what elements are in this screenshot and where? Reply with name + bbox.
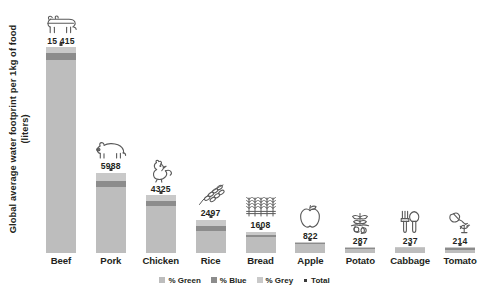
bar-column: 237 xyxy=(387,8,433,253)
potato-plant-icon xyxy=(346,211,374,235)
bar-segment-green xyxy=(445,250,475,253)
chicken-icon xyxy=(147,159,175,183)
chart-legend: % Green% Blue% GreyTotal xyxy=(0,274,489,286)
bar-column: 214 xyxy=(437,8,483,253)
total-marker-dot xyxy=(59,43,62,46)
bar-segment-green xyxy=(295,244,325,253)
x-axis-label-tomato: Tomato xyxy=(437,255,483,266)
legend-swatch-grey xyxy=(257,277,263,283)
legend-label: % Grey xyxy=(266,276,294,285)
bar-segment-green xyxy=(196,231,226,253)
bar-segment-grey xyxy=(96,173,126,181)
x-axis-label-beef: Beef xyxy=(38,255,84,266)
stacked-bar xyxy=(445,247,475,253)
watering-can-icon xyxy=(446,211,474,235)
bar-column: 287 xyxy=(337,8,383,253)
legend-item[interactable]: % Grey xyxy=(257,276,294,285)
y-axis-title-line1: Global average water footprint per 1kg o… xyxy=(8,25,18,234)
stacked-bar xyxy=(395,247,425,253)
bar-segment-green xyxy=(46,60,76,253)
legend-item[interactable]: % Blue xyxy=(211,276,247,285)
wheat-bundle-icon xyxy=(244,195,278,219)
bar-segment-green xyxy=(395,248,425,253)
x-axis-label-apple: Apple xyxy=(287,255,333,266)
total-marker-dot xyxy=(309,238,312,241)
total-marker-dot xyxy=(409,243,412,246)
bar-segment-green xyxy=(146,206,176,253)
garden-tools-icon xyxy=(396,209,424,235)
x-axis-label-rice: Rice xyxy=(188,255,234,266)
legend-label: Total xyxy=(311,276,330,285)
total-marker-dot xyxy=(459,243,462,246)
x-axis-labels: BeefPorkChickenRiceBreadApplePotatoCabba… xyxy=(36,255,485,269)
bar-column: 5988 xyxy=(88,8,134,253)
cow-icon xyxy=(44,13,78,35)
water-footprint-chart: Global average water footprint per 1kg o… xyxy=(0,0,489,301)
plot-area: 15 4155988432524971608822287237214 xyxy=(36,8,485,253)
x-axis-label-bread: Bread xyxy=(238,255,284,266)
total-marker-dot xyxy=(259,227,262,230)
stacked-bar xyxy=(196,220,226,253)
stacked-bar xyxy=(96,173,126,253)
legend-swatch-blue xyxy=(211,277,217,283)
apple-icon xyxy=(297,204,323,230)
y-axis-title: Global average water footprint per 1kg o… xyxy=(2,0,36,258)
legend-item[interactable]: % Green xyxy=(159,276,200,285)
total-marker-dot xyxy=(359,243,362,246)
x-axis-label-potato: Potato xyxy=(337,255,383,266)
y-axis-title-line2: (liters) xyxy=(19,25,31,234)
x-axis-label-pork: Pork xyxy=(88,255,134,266)
bar-column: 822 xyxy=(287,8,333,253)
stacked-bar xyxy=(246,232,276,253)
bar-column: 1608 xyxy=(238,8,284,253)
total-marker-dot xyxy=(209,215,212,218)
x-axis-label-cabbage: Cabbage xyxy=(387,255,433,266)
bar-segment-blue xyxy=(46,53,76,60)
legend-swatch-total-dot xyxy=(304,279,307,282)
x-axis-label-chicken: Chicken xyxy=(138,255,184,266)
bar-segment-green xyxy=(246,237,276,253)
legend-label: % Blue xyxy=(220,276,247,285)
wheat-sprig-icon xyxy=(194,183,228,207)
total-marker-dot xyxy=(159,191,162,194)
stacked-bar xyxy=(46,47,76,253)
bar-column: 15 415 xyxy=(38,8,84,253)
total-marker-dot xyxy=(109,168,112,171)
stacked-bar xyxy=(146,195,176,253)
pig-icon xyxy=(94,139,128,160)
bar-segment-green xyxy=(345,249,375,253)
legend-item[interactable]: Total xyxy=(303,276,330,285)
stacked-bar xyxy=(295,242,325,253)
stacked-bar xyxy=(345,247,375,253)
legend-label: % Green xyxy=(168,276,200,285)
bar-column: 2497 xyxy=(188,8,234,253)
bar-column: 4325 xyxy=(138,8,184,253)
bar-segment-green xyxy=(96,187,126,253)
legend-swatch-green xyxy=(159,277,165,283)
